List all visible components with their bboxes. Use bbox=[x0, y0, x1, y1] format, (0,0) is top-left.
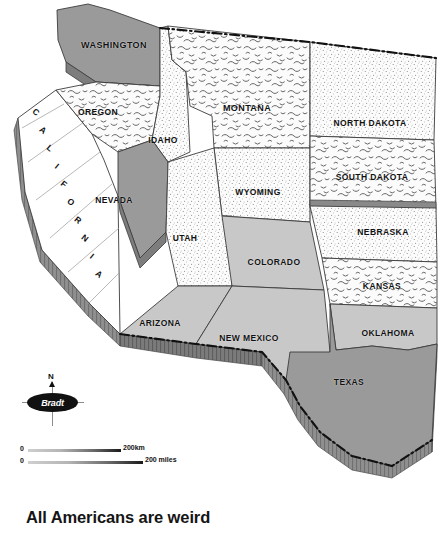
state-south-dakota[interactable] bbox=[310, 136, 436, 208]
bradt-logo: Bradt bbox=[27, 393, 78, 412]
state-wyoming[interactable] bbox=[214, 148, 310, 222]
state-colorado[interactable] bbox=[222, 216, 324, 290]
scale-miles-caption: 200 miles bbox=[145, 456, 177, 463]
state-oklahoma[interactable] bbox=[330, 304, 437, 350]
state-kansas[interactable] bbox=[322, 258, 437, 308]
compass-rose: N Bradt bbox=[20, 372, 86, 428]
scale-miles-zero: 0 bbox=[20, 457, 24, 464]
scale-km-caption: 200km bbox=[123, 444, 145, 451]
scale-km-zero: 0 bbox=[20, 445, 24, 452]
state-nebraska[interactable] bbox=[310, 206, 437, 262]
scale-km-bar bbox=[28, 449, 121, 452]
compass-north-arrow-icon bbox=[49, 381, 55, 387]
scale-miles-bar bbox=[28, 461, 143, 464]
scale-bars: 0 200km 0 200 miles bbox=[20, 444, 210, 474]
compass-north-label: N bbox=[48, 372, 54, 381]
map-page: WASHINGTON OREGON IDAHO NEVADA MONTANA W… bbox=[0, 0, 447, 537]
state-north-dakota[interactable] bbox=[310, 42, 436, 140]
bradt-logo-text: Bradt bbox=[41, 398, 64, 408]
map-stage: WASHINGTON OREGON IDAHO NEVADA MONTANA W… bbox=[0, 0, 447, 500]
page-caption: All Americans are weird bbox=[26, 508, 210, 527]
